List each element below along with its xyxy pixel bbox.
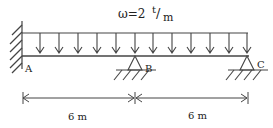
label-c: C (257, 59, 265, 70)
dimension-label-ab: 6 m (68, 111, 88, 122)
dimension-ab (23, 92, 134, 104)
dimension-label-bc: 6 m (188, 110, 208, 121)
load-symbol: ω=2 (118, 7, 145, 21)
label-a: A (24, 63, 33, 74)
fixed-support-a (10, 21, 22, 73)
beam-diagram: ω=2 t / m A B C 6 m 6 m (0, 0, 273, 128)
udl-arrows (36, 33, 251, 53)
load-unit-den: m (163, 11, 174, 24)
dimension-bc (135, 92, 248, 104)
load-unit-slash: / (156, 6, 161, 21)
label-b: B (145, 63, 152, 74)
